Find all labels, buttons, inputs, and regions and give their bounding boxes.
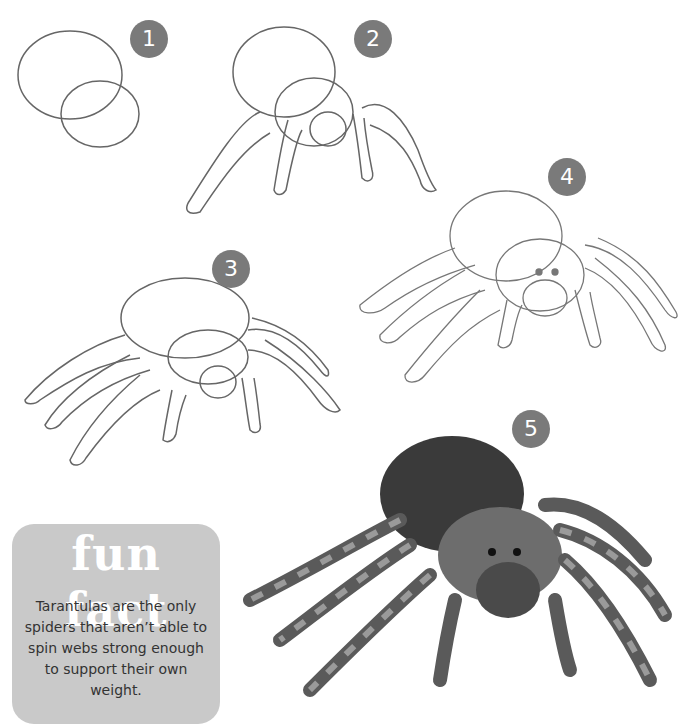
- step-badge-2: 2: [354, 20, 392, 58]
- step-5-tarantula: [250, 436, 665, 690]
- step-3-sketch: [25, 278, 340, 465]
- fun-fact-text: Tarantulas are the only spiders that are…: [22, 596, 210, 701]
- step-badge-3: 3: [212, 250, 250, 288]
- step-4-sketch: [360, 191, 677, 382]
- fun-fact-box: fun fact Tarantulas are the only spiders…: [12, 524, 220, 724]
- step-badge-5: 5: [512, 410, 550, 448]
- step-2-sketch: [187, 27, 436, 213]
- step-badge-1: 1: [130, 20, 168, 58]
- step-badge-4: 4: [548, 158, 586, 196]
- step-1-sketch: [18, 31, 139, 147]
